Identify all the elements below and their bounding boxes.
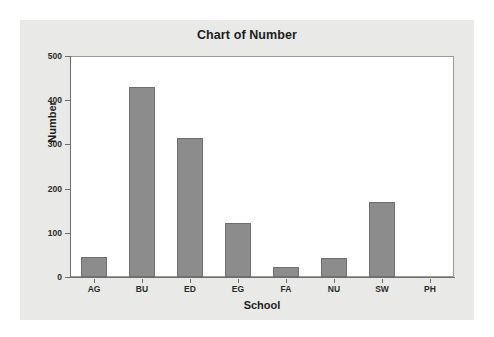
y-axis-tick-label: 0	[57, 272, 62, 282]
x-axis-tick-mark	[430, 279, 431, 283]
y-axis-tick-mark	[65, 100, 70, 101]
y-axis-tick-label: 100	[48, 228, 62, 238]
x-axis-tick-label: NU	[310, 284, 358, 294]
y-axis-tick-mark	[65, 189, 70, 190]
x-axis-category: EG	[214, 279, 262, 295]
x-axis-tick-label: AG	[70, 284, 118, 294]
x-axis-category: PH	[406, 279, 454, 295]
y-axis-tick-mark	[65, 277, 70, 278]
x-axis-category: ED	[166, 279, 214, 295]
y-axis-line	[70, 56, 71, 278]
x-axis-tick-mark	[382, 279, 383, 283]
x-axis-category: NU	[310, 279, 358, 295]
x-axis-tick-mark	[142, 279, 143, 283]
bar	[129, 87, 155, 277]
x-axis-tick-mark	[94, 279, 95, 283]
chart-figure-panel: Chart of Number 0100200300400500 AGBUEDE…	[20, 20, 474, 320]
x-axis-tick-mark	[190, 279, 191, 283]
bar	[321, 258, 347, 277]
x-axis-tick-mark	[286, 279, 287, 283]
bar	[369, 202, 395, 277]
bar	[225, 223, 251, 277]
bar	[273, 267, 299, 277]
x-axis-line	[70, 277, 455, 278]
x-axis-title: School	[70, 299, 454, 311]
y-axis-tick-label: 500	[48, 51, 62, 61]
bar	[177, 138, 203, 277]
x-axis-category: BU	[118, 279, 166, 295]
plot-area	[70, 56, 454, 277]
x-axis-category: AG	[70, 279, 118, 295]
chart-title: Chart of Number	[20, 28, 474, 42]
y-axis-tick-label: 200	[48, 184, 62, 194]
x-axis-tick-mark	[334, 279, 335, 283]
y-axis-tick-mark	[65, 56, 70, 57]
x-axis-category: SW	[358, 279, 406, 295]
x-axis-tick-label: EG	[214, 284, 262, 294]
x-axis-tick-label: BU	[118, 284, 166, 294]
y-axis-tick-mark	[65, 144, 70, 145]
x-axis-tick-label: ED	[166, 284, 214, 294]
x-axis-tick-label: FA	[262, 284, 310, 294]
x-axis-tick-label: SW	[358, 284, 406, 294]
bar	[81, 257, 107, 277]
x-axis-tick-label: PH	[406, 284, 454, 294]
x-axis-category: FA	[262, 279, 310, 295]
y-axis-tick-mark	[65, 233, 70, 234]
x-axis-tick-mark	[238, 279, 239, 283]
y-axis-title: Number	[46, 72, 58, 172]
